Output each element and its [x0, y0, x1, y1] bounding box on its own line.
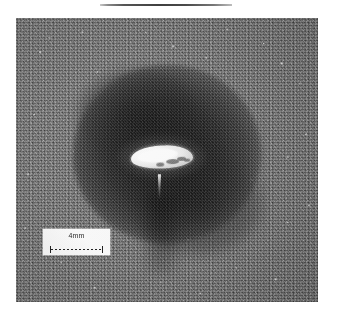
top-horizontal-rule [100, 4, 232, 6]
scale-bar: 4mm [43, 229, 110, 255]
weld-pool-fleck [156, 163, 164, 167]
scale-bar-dimension-line [50, 246, 103, 253]
scale-bar-end-cap-right [102, 246, 103, 253]
scale-bar-dashed-line [51, 249, 102, 250]
micrograph-photo: 4mm [16, 18, 318, 302]
scale-bar-label: 4mm [43, 231, 110, 240]
weld-pool-fleck [185, 158, 191, 161]
